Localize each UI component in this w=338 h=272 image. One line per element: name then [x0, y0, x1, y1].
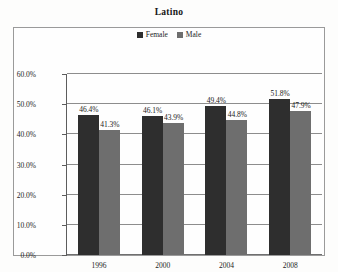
bar-value-label: 49.4%: [200, 96, 232, 105]
legend-swatch-male-icon: [177, 32, 183, 38]
bar-male-2008[interactable]: [290, 111, 311, 255]
bar-value-label: 47.9%: [285, 101, 317, 110]
chart-title: Latino: [0, 7, 338, 17]
y-tick-label: 20.0%: [0, 190, 36, 199]
bar-group-1996: 46.4%41.3%: [78, 74, 120, 255]
x-tick-label-1996: 1996: [69, 261, 129, 270]
bar-male-1996[interactable]: [99, 130, 120, 255]
y-tick-label: 30.0%: [0, 160, 36, 169]
bar-male-2000[interactable]: [163, 123, 184, 255]
bar-group-2008: 51.8%47.9%: [269, 74, 311, 255]
bar-female-2004[interactable]: [205, 106, 226, 255]
chart-figure: Latino Female Male 60.0%50.0%40.0%30.0%2…: [0, 0, 338, 272]
x-tick-label-2000: 2000: [133, 261, 193, 270]
legend-item-male[interactable]: Male: [177, 31, 201, 39]
legend-item-female[interactable]: Female: [137, 31, 168, 39]
y-tick-label: 10.0%: [0, 220, 36, 229]
chart-legend: Female Male: [14, 31, 324, 39]
y-tick-label: 50.0%: [0, 100, 36, 109]
bar-female-2000[interactable]: [142, 116, 163, 255]
y-tick-label: 40.0%: [0, 130, 36, 139]
bar-group-2004: 49.4%44.8%: [205, 74, 247, 255]
bar-value-label: 44.8%: [221, 110, 253, 119]
plot-area: 46.4%41.3%46.1%43.9%49.4%44.8%51.8%47.9%: [67, 74, 322, 255]
x-tick-label-2004: 2004: [196, 261, 256, 270]
legend-label-male: Male: [186, 31, 201, 39]
y-tick-label: 60.0%: [0, 70, 36, 79]
x-tick-label-2008: 2008: [260, 261, 320, 270]
chart-frame: Female Male 60.0%50.0%40.0%30.0%20.0%10.…: [13, 27, 325, 256]
y-tick-label: 0.0%: [0, 251, 36, 260]
legend-swatch-female-icon: [137, 32, 143, 38]
bar-male-2004[interactable]: [226, 120, 247, 255]
bar-group-2000: 46.1%43.9%: [142, 74, 184, 255]
bar-value-label: 41.3%: [94, 120, 126, 129]
bar-value-label: 51.8%: [264, 89, 296, 98]
bar-female-2008[interactable]: [269, 99, 290, 255]
bar-female-1996[interactable]: [78, 115, 99, 255]
legend-label-female: Female: [146, 31, 168, 39]
bar-value-label: 43.9%: [158, 113, 190, 122]
y-tick-mark: [62, 255, 67, 256]
bar-value-label: 46.4%: [73, 105, 105, 114]
